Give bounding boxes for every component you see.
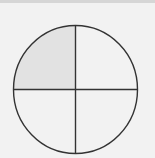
fraction-diagram [0,0,155,158]
circle-diagram [0,0,155,158]
shaded-quadrant [14,26,76,90]
